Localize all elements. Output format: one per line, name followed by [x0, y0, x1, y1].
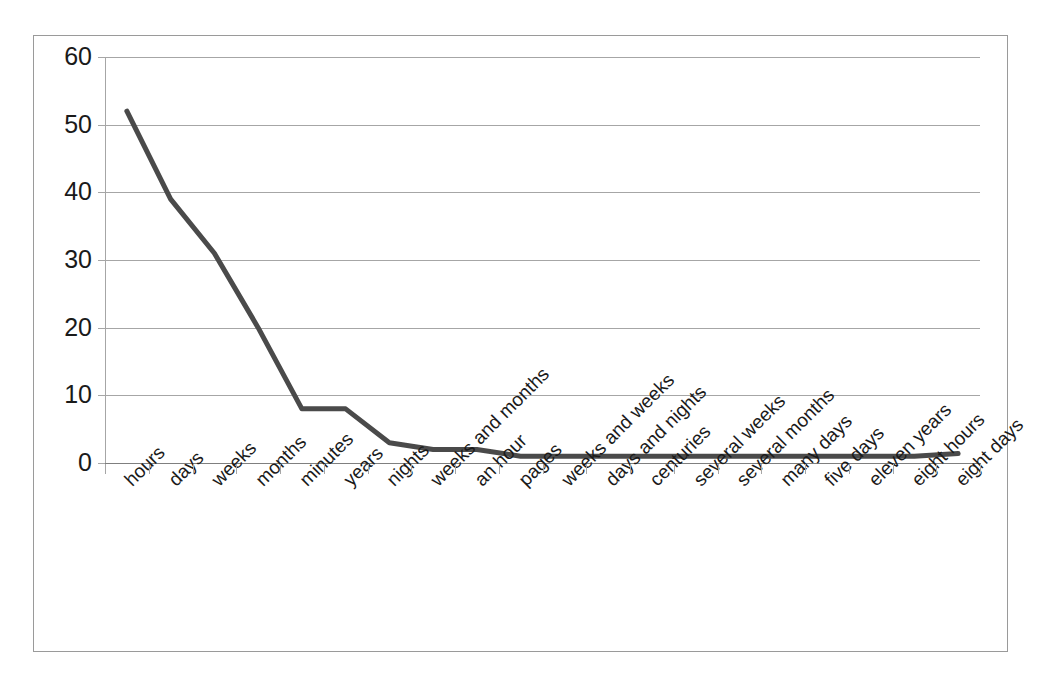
y-tick-label-60: 60	[64, 44, 92, 69]
x-label-0: hours	[121, 476, 134, 489]
x-label-2: weeks	[208, 476, 221, 489]
x-label-19: eight days	[952, 476, 965, 489]
x-label-16: five days	[821, 476, 834, 489]
x-tick-mark-19	[936, 464, 937, 474]
x-tick-mark-5	[324, 464, 325, 474]
x-tick-mark-2	[193, 464, 194, 474]
y-tick-mark-10	[98, 395, 105, 396]
x-tick-mark-14	[718, 464, 719, 474]
x-tick-mark-1	[149, 464, 150, 474]
y-tick-mark-40	[98, 192, 105, 193]
x-label-5: years	[340, 476, 353, 489]
y-tick-mark-30	[98, 260, 105, 261]
x-tick-mark-6	[368, 464, 369, 474]
x-label-15: many days	[777, 476, 790, 489]
x-tick-mark-16	[805, 464, 806, 474]
x-tick-mark-18	[893, 464, 894, 474]
x-tick-mark-4	[280, 464, 281, 474]
x-tick-mark-20	[980, 464, 981, 474]
y-tick-mark-0	[98, 463, 105, 464]
y-tick-label-50: 50	[64, 112, 92, 137]
y-tick-label-10: 10	[64, 382, 92, 407]
x-label-8: an hour	[471, 476, 484, 489]
x-axis-labels: hoursdaysweeksmonthsminutesyearsnightswe…	[105, 476, 985, 656]
y-axis-labels: 6050403020100	[0, 0, 92, 674]
chart-container: 6050403020100 hoursdaysweeksmonthsminute…	[0, 0, 1037, 674]
x-label-4: minutes	[296, 476, 309, 489]
x-label-1: days	[165, 476, 178, 489]
x-label-17: eleven years	[865, 476, 878, 489]
x-tick-mark-8	[455, 464, 456, 474]
y-tick-mark-20	[98, 328, 105, 329]
y-tick-label-20: 20	[64, 315, 92, 340]
x-label-3: months	[252, 476, 265, 489]
y-tick-mark-50	[98, 125, 105, 126]
x-label-10: weeks and weeks	[558, 476, 571, 489]
data-series-line	[105, 57, 980, 464]
x-label-6: nights	[383, 476, 396, 489]
y-tick-label-30: 30	[64, 247, 92, 272]
x-label-18: eight hours	[908, 476, 921, 489]
x-label-13: several weeks	[690, 476, 703, 489]
x-tick-mark-3	[236, 464, 237, 474]
series-polyline	[127, 111, 958, 456]
x-label-14: several months	[733, 476, 746, 489]
y-tick-mark-60	[98, 57, 105, 58]
x-label-12: centuries	[646, 476, 659, 489]
x-tick-mark-10	[543, 464, 544, 474]
x-label-11: days and nights	[602, 476, 615, 489]
x-label-9: pages	[515, 476, 528, 489]
y-tick-label-40: 40	[64, 179, 92, 204]
x-tick-mark-9	[499, 464, 500, 474]
x-tick-mark-13	[674, 464, 675, 474]
x-tick-mark-12	[630, 464, 631, 474]
x-tick-mark-11	[586, 464, 587, 474]
x-label-7: weeks and months	[427, 476, 440, 489]
y-tick-label-0: 0	[78, 450, 92, 475]
x-tick-mark-7	[411, 464, 412, 474]
x-tick-mark-15	[761, 464, 762, 474]
x-tick-mark-17	[849, 464, 850, 474]
x-tick-mark-0	[105, 464, 106, 474]
